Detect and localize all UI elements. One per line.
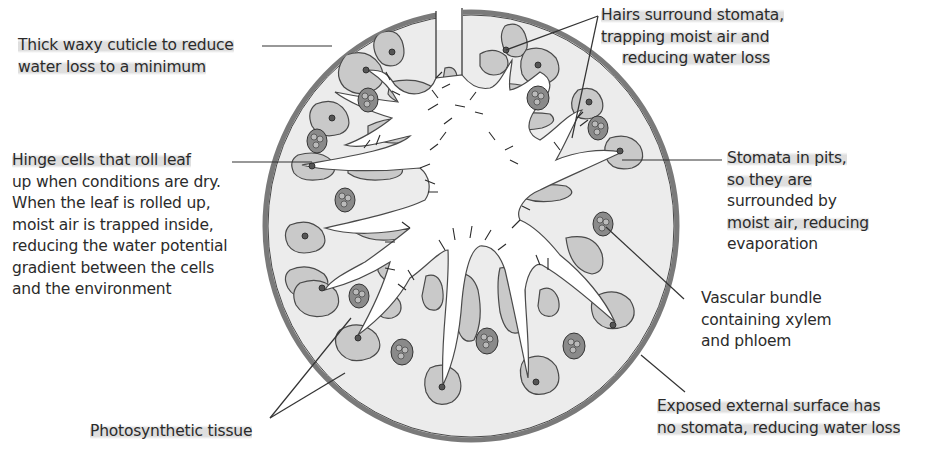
label-line: Hairs surround stomata,	[601, 6, 784, 24]
label-line: gradient between the cells	[12, 259, 214, 277]
label-line: water loss to a minimum	[18, 58, 206, 76]
label-line: so they are	[727, 171, 812, 189]
label-line: reducing water loss	[622, 49, 770, 67]
label-vascular-bundle: Vascular bundle containing xylem and phl…	[701, 288, 832, 353]
label-line: Vascular bundle	[701, 289, 822, 307]
label-line: evaporation	[727, 235, 818, 253]
label-line: reducing the water potential	[12, 237, 227, 255]
label-line: Stomata in pits,	[727, 149, 847, 167]
label-line: Thick waxy cuticle to reduce	[18, 36, 234, 54]
label-hinge-cells: Hinge cells that roll leaf up when condi…	[12, 150, 227, 301]
label-line: Hinge cells that roll leaf	[12, 151, 191, 169]
label-hairs: Hairs surround stomata, trapping moist a…	[601, 5, 784, 70]
label-line: moist air, reducing	[727, 214, 869, 232]
label-line: moist air is trapped inside,	[12, 216, 214, 234]
label-line: Photosynthetic tissue	[90, 422, 252, 440]
label-line: Exposed external surface has	[657, 397, 880, 415]
label-line: trapping moist air and	[601, 28, 769, 46]
label-line: containing xylem	[701, 311, 832, 329]
leader-external	[641, 355, 685, 392]
label-cuticle: Thick waxy cuticle to reduce water loss …	[18, 35, 234, 78]
label-line: and phloem	[701, 332, 791, 350]
leader-photo-2	[270, 373, 345, 418]
label-line: up when conditions are dry.	[12, 173, 221, 191]
label-line: When the leaf is rolled up,	[12, 194, 210, 212]
label-external-surface: Exposed external surface has no stomata,…	[657, 396, 900, 439]
label-line: surrounded by	[727, 192, 837, 210]
label-line: and the environment	[12, 280, 171, 298]
label-photosynthetic-tissue: Photosynthetic tissue	[90, 421, 252, 443]
label-line: no stomata, reducing water loss	[657, 419, 900, 437]
label-stomata-in-pits: Stomata in pits, so they are surrounded …	[727, 148, 869, 256]
